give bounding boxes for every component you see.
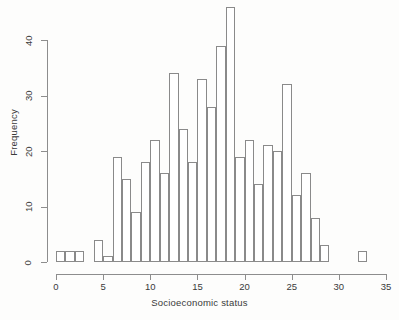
histogram-bar — [188, 162, 197, 262]
histogram-bar — [75, 251, 84, 262]
histogram-bar — [301, 173, 310, 262]
x-axis-tick-label: 15 — [184, 282, 210, 292]
x-axis-tick-label: 5 — [90, 282, 116, 292]
histogram-bar — [150, 140, 159, 262]
y-axis-line — [47, 40, 48, 262]
x-axis-tick — [339, 274, 340, 280]
histogram-bar — [56, 251, 65, 262]
x-axis-tick-label: 10 — [137, 282, 163, 292]
histogram-bar — [263, 145, 272, 262]
histogram-bar — [311, 218, 320, 262]
x-axis-line — [56, 274, 386, 275]
y-axis-tick-label-text: 0 — [23, 260, 33, 265]
x-axis-tick — [56, 274, 57, 280]
histogram-bar — [160, 173, 169, 262]
x-axis-tick-label: 35 — [373, 282, 399, 292]
histogram-bar — [245, 140, 254, 262]
histogram-bar — [226, 7, 235, 262]
histogram-bar — [273, 151, 282, 262]
x-axis-label: Socioeconomic status — [0, 297, 399, 308]
histogram-figure: Frequency 010203040 05101520253035 Socio… — [0, 0, 399, 320]
y-axis-tick — [41, 207, 47, 208]
histogram-bar — [179, 129, 188, 262]
histogram-bar — [197, 79, 206, 262]
x-axis-tick — [103, 274, 104, 280]
histogram-bar — [292, 195, 301, 262]
x-axis-tick-label: 25 — [279, 282, 305, 292]
histogram-bar — [320, 245, 329, 262]
x-axis-tick — [150, 274, 151, 280]
histogram-bar — [94, 240, 103, 262]
histogram-bar — [358, 251, 367, 262]
histogram-bar — [113, 157, 122, 262]
x-axis-tick — [292, 274, 293, 280]
x-axis-tick — [197, 274, 198, 280]
y-axis-tick-label: 10 — [18, 202, 38, 213]
x-axis-label-text: Socioeconomic status — [151, 297, 247, 308]
histogram-bar — [207, 107, 216, 262]
histogram-bar — [122, 179, 131, 262]
histogram-bar — [103, 256, 112, 262]
x-axis-tick-label: 30 — [326, 282, 352, 292]
y-axis-tick-label-text: 30 — [23, 91, 33, 102]
x-axis-tick-label: 20 — [232, 282, 258, 292]
histogram-bar — [254, 184, 263, 262]
histogram-bar — [65, 251, 74, 262]
histogram-bar — [131, 212, 140, 262]
histogram-bar — [216, 46, 225, 262]
histogram-bar — [141, 162, 150, 262]
y-axis-tick-label: 40 — [18, 35, 38, 46]
x-axis-tick — [245, 274, 246, 280]
plot-area — [56, 0, 386, 262]
histogram-bar — [235, 157, 244, 262]
x-axis-tick-label: 0 — [43, 282, 69, 292]
y-axis-tick-label-text: 20 — [23, 146, 33, 157]
histogram-bar — [282, 84, 291, 262]
x-axis-tick — [386, 274, 387, 280]
y-axis-tick — [41, 262, 47, 263]
y-axis-tick — [41, 40, 47, 41]
histogram-bar — [169, 73, 178, 262]
y-axis-tick-label-text: 40 — [23, 35, 33, 46]
y-axis-tick — [41, 96, 47, 97]
y-axis-tick-label: 30 — [18, 91, 38, 102]
y-axis-tick-label: 0 — [18, 257, 38, 268]
y-axis-label-text: Frequency — [8, 109, 19, 156]
y-axis-tick-label-text: 10 — [23, 202, 33, 213]
y-axis-tick-label: 20 — [18, 146, 38, 157]
y-axis-tick — [41, 151, 47, 152]
